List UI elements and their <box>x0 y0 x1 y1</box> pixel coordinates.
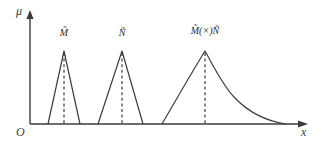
curve-m-times-n <box>162 51 286 124</box>
curve-label-m-tilde: M̃ <box>60 28 68 38</box>
curve-label-n-tilde: Ñ <box>119 28 126 38</box>
curve-label-m-times-n: M̃(×)Ñ <box>191 26 219 36</box>
origin-label: O <box>16 126 25 138</box>
curve-m-tilde <box>48 51 80 124</box>
plot-canvas <box>0 0 324 152</box>
y-axis <box>26 10 33 124</box>
x-axis-label: x <box>301 126 306 138</box>
x-axis <box>30 120 308 127</box>
y-axis-label: μ <box>16 5 22 17</box>
curve-n-tilde <box>98 51 143 124</box>
fuzzy-number-figure: μ O x M̃ Ñ M̃(×)Ñ <box>0 0 324 152</box>
